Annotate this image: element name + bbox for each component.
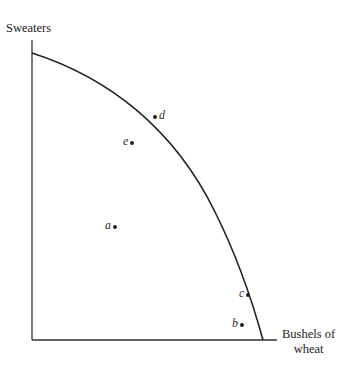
y-axis-label: Sweaters [6,21,51,36]
label-b: b [232,316,238,331]
x-axis-label-line2: wheat [282,342,335,357]
label-a: a [105,218,111,233]
point-d [153,115,157,119]
label-c: c [239,286,244,301]
point-e [130,141,134,145]
ppf-diagram [0,0,352,371]
point-c [246,293,250,297]
point-b [240,323,244,327]
point-a [113,225,117,229]
x-axis-label-line1: Bushels of [282,327,335,342]
label-e: e [123,134,128,149]
label-d: d [159,108,165,123]
x-axis-label: Bushels of wheat [282,327,335,357]
ppf-curve [32,53,263,340]
